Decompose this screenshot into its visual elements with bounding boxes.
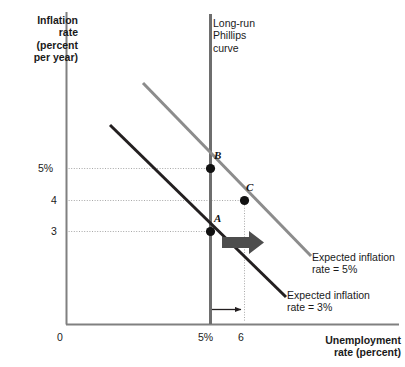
x-axis-title: Unemployment rate (percent) [268, 334, 401, 359]
origin-label: 0 [57, 331, 63, 343]
point-label-A: A [214, 212, 221, 224]
expected-inflation-3-label: Expected inflation rate = 3% [287, 289, 370, 314]
y-axis-title: Inflation rate (percent per year) [4, 14, 78, 64]
point-A [206, 227, 215, 236]
y-tick-label-3: 3 [51, 225, 57, 237]
point-label-C: C [246, 181, 253, 193]
point-label-B: B [214, 149, 221, 161]
phillips-curve-figure: Inflation rate (percent per year) Unempl… [0, 0, 405, 367]
curve-shift-arrow [222, 231, 264, 254]
y-tick-label-5: 5% [38, 162, 53, 174]
x-tick-label-5: 5% [198, 331, 213, 343]
expected-inflation-5-label: Expected inflation rate = 5% [312, 251, 395, 276]
short-run-phillips-curve-expected-5 [143, 83, 311, 256]
long-run-phillips-curve-label: Long-run Phillips curve [213, 17, 255, 54]
short-run-phillips-curve-expected-3 [110, 125, 286, 297]
gridlines [66, 169, 245, 323]
point-B [206, 164, 215, 173]
y-tick-label-4: 4 [51, 194, 57, 206]
point-C [240, 196, 249, 205]
x-tick-label-6: 6 [238, 331, 244, 343]
